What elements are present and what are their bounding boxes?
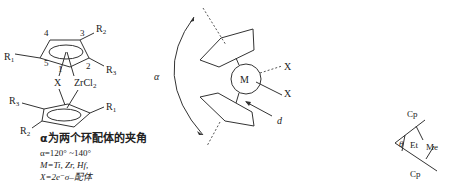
distance-d-arrowhead bbox=[245, 101, 251, 106]
x-ligand-bond-dashed bbox=[260, 66, 282, 73]
ring-pos-2: 2 bbox=[86, 61, 91, 71]
upper-ring-normal-axis bbox=[203, 8, 226, 45]
bridge-x-label: X bbox=[54, 77, 62, 88]
cp-top-label: Cp bbox=[407, 109, 418, 119]
lower-cp-ring bbox=[200, 93, 254, 126]
ring-pos-4: 4 bbox=[44, 28, 49, 38]
me-label: Me bbox=[426, 142, 438, 152]
bent-metallocene-geometry: α M X X d bbox=[154, 8, 292, 146]
bottom-cp-aromatic-circle bbox=[47, 109, 81, 121]
x-bridge-bond-bottom bbox=[59, 89, 65, 105]
bottom-r3-bond bbox=[22, 103, 44, 109]
zrcl2-label: ZrCl2 bbox=[74, 77, 97, 90]
ring-pos-5: 5 bbox=[44, 58, 49, 68]
alpha-label: α bbox=[154, 71, 160, 82]
theta-label: θ bbox=[399, 139, 404, 149]
x-ligand-label-2: X bbox=[284, 88, 292, 99]
top-r1-bond bbox=[15, 54, 40, 58]
cp-bottom-label: Cp bbox=[410, 169, 421, 179]
bottom-r1-bond bbox=[90, 107, 104, 113]
bridged-zirconocene-structure: 4 3 5 1 2 R1 R2 R3 X ZrCl2 R3 R1 R2 bbox=[4, 23, 117, 138]
top-r2-label: R2 bbox=[96, 23, 107, 36]
caption-metal-list: M=Ti, Zr, Hf, bbox=[40, 159, 88, 171]
bottom-r2-label: R2 bbox=[20, 125, 31, 138]
metal-m-label: M bbox=[240, 74, 249, 85]
caption-alpha-definition: α为两个环配体的夹角 bbox=[40, 133, 147, 145]
caption-alpha-range: α=120° ~140° bbox=[40, 147, 91, 159]
caption-ligand-type: X=2e⁻σ–配体 bbox=[40, 171, 92, 183]
x-ligand-label-1: X bbox=[284, 61, 292, 72]
upper-ring-metal-bond bbox=[236, 58, 239, 65]
lower-ring-normal-axis bbox=[207, 122, 220, 146]
ring-pos-3: 3 bbox=[80, 28, 85, 38]
bottom-r1-label: R1 bbox=[106, 101, 117, 114]
alpha-angle-arc bbox=[174, 17, 203, 135]
top-r1-label: R1 bbox=[4, 51, 15, 64]
upper-cp-ring bbox=[200, 29, 254, 67]
lower-ring-metal-bond bbox=[236, 93, 239, 103]
zr-bond-bottom bbox=[67, 90, 78, 108]
bottom-cp-ring bbox=[42, 104, 90, 127]
bottom-r2-bond bbox=[32, 121, 42, 128]
zr-bond-top bbox=[67, 52, 74, 76]
bottom-r3-label: R3 bbox=[9, 95, 20, 108]
me-bracket-top bbox=[416, 126, 423, 140]
distance-d-label: d bbox=[277, 115, 283, 126]
x-ligand-bond-solid bbox=[256, 82, 282, 95]
top-r3-bond bbox=[89, 58, 104, 66]
cp-angle-diagram: Cp θ Et Me Cp bbox=[395, 109, 438, 179]
top-r3-label: R3 bbox=[106, 64, 117, 77]
et-label: Et bbox=[410, 140, 418, 150]
